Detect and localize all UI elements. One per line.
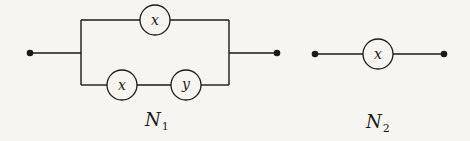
n2-switch-x: x [363,39,393,69]
switch-label: y [181,76,191,92]
switch-label: x [374,46,382,62]
switch-label: x [151,12,159,28]
n2-label: N2 [365,111,390,135]
network-n1: x x y N1 [27,5,281,133]
network-n2: x N2 [312,39,448,135]
switch-label: x [118,77,126,93]
n1-top-switch: x [140,5,170,35]
n1-right-terminal [274,50,281,57]
n1-bottom-switch-x: x [107,70,137,100]
n1-label: N1 [144,109,169,133]
n1-bottom-switch-y: y [171,70,201,100]
switching-networks-diagram: x x y N1 x N2 [0,0,470,141]
n2-right-terminal [441,51,448,58]
